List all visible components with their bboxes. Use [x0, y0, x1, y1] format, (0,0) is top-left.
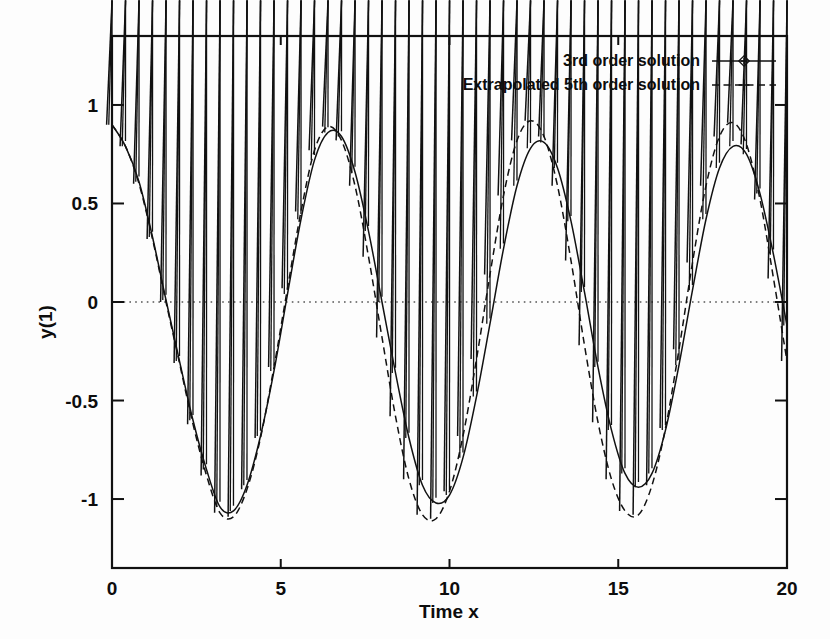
x-tick-label: 0 [107, 578, 118, 599]
x-tick-label: 10 [439, 578, 460, 599]
x-axis-label: Time x [419, 601, 479, 622]
plus-marker-icon [739, 80, 750, 91]
chart-page: 05101520 -1-0.500.51 3rd order solutionE… [0, 0, 830, 639]
legend-label: 3rd order solution [563, 52, 700, 69]
plus-marker-icon [566, 0, 571, 260]
plot-canvas: 05101520 -1-0.500.51 3rd order solutionE… [0, 0, 830, 639]
x-tick-label: 20 [776, 578, 797, 599]
y-axis-tick-labels: -1-0.500.51 [65, 95, 98, 510]
legend-label: Extrapolated 5th order solution [463, 76, 700, 93]
y-axis-label: y(1) [35, 305, 56, 339]
y-tick-label: -1 [81, 489, 98, 510]
y-tick-label: 0.5 [72, 193, 99, 214]
y-tick-label: 1 [87, 95, 98, 116]
y-tick-label: 0 [87, 292, 98, 313]
x-axis-tick-labels: 05101520 [107, 578, 798, 599]
x-tick-label: 5 [275, 578, 286, 599]
x-tick-label: 15 [608, 578, 630, 599]
y-tick-label: -0.5 [65, 391, 98, 412]
